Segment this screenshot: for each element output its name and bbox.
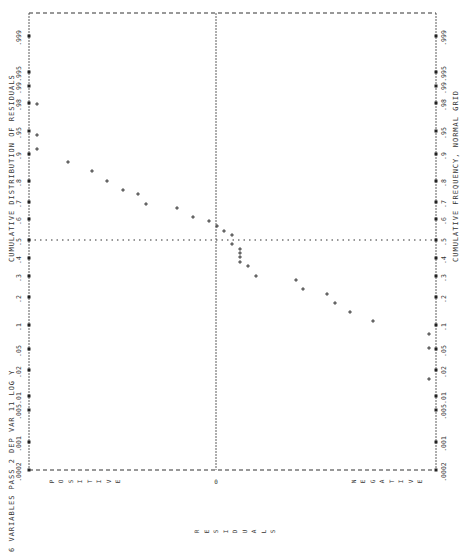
svg-text:.2: .2: [15, 295, 23, 303]
svg-text:.01: .01: [440, 392, 448, 404]
svg-text:.995: .995: [440, 66, 448, 82]
svg-text:.3: .3: [440, 274, 448, 282]
svg-text:.1: .1: [440, 323, 448, 331]
svg-text:.4: .4: [440, 256, 448, 264]
svg-text:.001: .001: [440, 436, 448, 452]
svg-text:.99: .99: [440, 82, 448, 94]
svg-text:.6: .6: [440, 217, 448, 225]
svg-text:.05: .05: [15, 345, 23, 357]
svg-text:.5: .5: [15, 238, 23, 246]
svg-text:.95: .95: [15, 127, 23, 139]
svg-text:.05: .05: [440, 345, 448, 357]
svg-text:.999: .999: [440, 30, 448, 46]
svg-text:.0002: .0002: [440, 462, 448, 482]
svg-text:.7: .7: [440, 200, 448, 208]
svg-text:.8: .8: [15, 179, 23, 187]
svg-text:.995: .995: [15, 66, 23, 82]
svg-text:.999: .999: [15, 30, 23, 46]
svg-text:.8: .8: [440, 179, 448, 187]
svg-text:.7: .7: [15, 200, 23, 208]
zero-label: 0: [212, 478, 220, 485]
svg-text:.95: .95: [440, 127, 448, 139]
svg-text:.001: .001: [15, 436, 23, 452]
svg-text:.4: .4: [15, 256, 23, 264]
svg-text:.005: .005: [440, 404, 448, 420]
svg-text:.5: .5: [440, 238, 448, 246]
svg-text:.9: .9: [15, 152, 23, 160]
residuals-axis-title: RESIDUALS: [195, 528, 275, 535]
svg-text:.98: .98: [15, 99, 23, 111]
svg-text:.9: .9: [440, 152, 448, 160]
negative-label: NEGATIVE: [352, 478, 422, 485]
positive-label: POSITIVE: [50, 478, 120, 485]
svg-text:.005: .005: [15, 404, 23, 420]
svg-text:.1: .1: [15, 323, 23, 331]
svg-text:.3: .3: [15, 274, 23, 282]
svg-text:.2: .2: [440, 295, 448, 303]
svg-text:.6: .6: [15, 217, 23, 225]
svg-text:.98: .98: [440, 99, 448, 111]
svg-text:.02: .02: [440, 366, 448, 378]
svg-text:.0002: .0002: [15, 462, 23, 482]
svg-text:.02: .02: [15, 366, 23, 378]
svg-text:.99: .99: [15, 82, 23, 94]
residual-distribution-plot: .999.999.995.995.99.99.98.98.95.95.9.9.8…: [0, 0, 466, 556]
svg-text:.01: .01: [15, 392, 23, 404]
